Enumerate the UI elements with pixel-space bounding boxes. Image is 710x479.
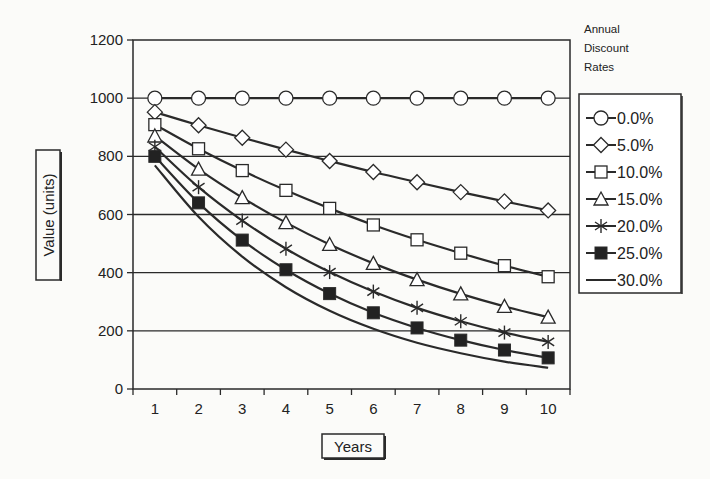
legend-label: 25.0% bbox=[617, 245, 662, 262]
x-tick-label: 1 bbox=[151, 400, 159, 417]
x-tick-label: 6 bbox=[369, 400, 377, 417]
series-50-pct bbox=[147, 105, 555, 218]
y-tick-label: 200 bbox=[98, 322, 123, 339]
x-tick-label: 3 bbox=[238, 400, 246, 417]
y-axis-label: Value (units) bbox=[36, 150, 61, 281]
y-tick-label: 400 bbox=[98, 264, 123, 281]
x-tick-label: 2 bbox=[194, 400, 202, 417]
series-100-pct bbox=[149, 119, 554, 283]
x-tick-label: 9 bbox=[500, 400, 508, 417]
legend-label: 5.0% bbox=[617, 137, 653, 154]
discount-rate-chart: 02004006008001000120012345678910Value (u… bbox=[0, 0, 710, 479]
svg-text:Value (units): Value (units) bbox=[40, 173, 57, 256]
series-00-pct bbox=[148, 91, 555, 105]
x-tick-label: 4 bbox=[282, 400, 290, 417]
legend-label: 15.0% bbox=[617, 191, 662, 208]
series-300-pct bbox=[155, 165, 548, 367]
series-250-pct bbox=[149, 150, 554, 364]
x-tick-label: 5 bbox=[325, 400, 333, 417]
legend-title-line: Annual bbox=[584, 23, 620, 35]
y-tick-label: 0 bbox=[115, 380, 123, 397]
legend-label: 20.0% bbox=[617, 218, 662, 235]
legend-label: 0.0% bbox=[617, 110, 653, 127]
legend-title-line: Discount bbox=[584, 42, 630, 54]
svg-text:Years: Years bbox=[334, 438, 372, 455]
y-tick-label: 1000 bbox=[90, 89, 123, 106]
y-tick-label: 1200 bbox=[90, 31, 123, 48]
x-tick-label: 10 bbox=[540, 400, 557, 417]
x-tick-label: 8 bbox=[457, 400, 465, 417]
y-tick-label: 600 bbox=[98, 206, 123, 223]
legend-label: 30.0% bbox=[617, 272, 662, 289]
y-tick-label: 800 bbox=[98, 147, 123, 164]
series-200-pct bbox=[149, 140, 554, 349]
legend-label: 10.0% bbox=[617, 164, 662, 181]
x-tick-label: 7 bbox=[413, 400, 421, 417]
x-axis-label: Years bbox=[322, 434, 385, 459]
legend-title-line: Rates bbox=[584, 61, 614, 73]
